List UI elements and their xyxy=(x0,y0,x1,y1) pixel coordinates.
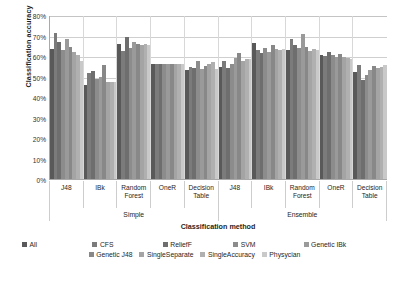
legend-label: SingleAccuracy xyxy=(208,251,255,258)
legend-swatch-icon xyxy=(92,242,97,247)
legend-label: SingleSeparate xyxy=(147,251,193,258)
y-tick-label: 0% xyxy=(18,177,46,184)
x-axis-super-category-labels: SimpleEnsemble xyxy=(49,208,387,221)
x-axis-category-labels: J48IBkRandom ForestOneRDecision TableJ48… xyxy=(49,181,387,208)
y-tick-label: 20% xyxy=(18,136,46,143)
legend-item[interactable]: All xyxy=(22,241,92,248)
y-tick-label: 80% xyxy=(18,13,46,20)
x-group-label: Simple xyxy=(49,208,218,221)
bar-group xyxy=(219,16,253,179)
bar-group xyxy=(84,16,118,179)
y-tick-label: 50% xyxy=(18,74,46,81)
bar-group xyxy=(50,16,84,179)
legend-item[interactable]: Genetic IBk xyxy=(304,241,374,248)
legend-label: Genetic J48 xyxy=(96,251,132,258)
x-tick-label: J48 xyxy=(218,181,252,208)
legend-swatch-icon xyxy=(304,242,309,247)
y-tick-label: 60% xyxy=(18,54,46,61)
bar-group xyxy=(117,16,151,179)
bar-group xyxy=(353,16,387,179)
legend-swatch-icon xyxy=(89,252,94,257)
x-tick-label: Random Forest xyxy=(116,181,150,208)
legend-item[interactable]: CFS xyxy=(92,241,162,248)
bar-chart: Classification accuracy 80%70%60%50%40%3… xyxy=(0,0,394,283)
x-tick-label: J48 xyxy=(49,181,83,208)
legend-swatch-icon xyxy=(163,242,168,247)
legend-label: CFS xyxy=(100,241,114,248)
legend-swatch-icon xyxy=(139,252,144,257)
x-group-label: Ensemble xyxy=(218,208,388,221)
legend-swatch-icon xyxy=(200,252,205,257)
legend-item[interactable]: SingleAccuracy xyxy=(200,251,254,258)
y-tick-label: 10% xyxy=(18,156,46,163)
x-tick-label: IBk xyxy=(251,181,285,208)
legend-item[interactable]: Physycian xyxy=(262,251,300,258)
bar xyxy=(383,65,387,179)
bar-group xyxy=(320,16,354,179)
legend-item[interactable]: Genetic J48 xyxy=(89,251,133,258)
bar-group xyxy=(252,16,286,179)
bar-group xyxy=(185,16,219,179)
bar-group xyxy=(286,16,320,179)
legend-label: Genetic IBk xyxy=(311,241,346,248)
legend-swatch-icon xyxy=(262,252,267,257)
legend-label: All xyxy=(29,241,37,248)
legend-row-2: Genetic J48SingleSeparateSingleAccuracyP… xyxy=(22,249,374,258)
y-tick-label: 70% xyxy=(18,33,46,40)
legend: AllCFSReliefFSVMGenetic IBk Genetic J48S… xyxy=(22,240,374,259)
legend-label: Physycian xyxy=(269,251,300,258)
bar-groups xyxy=(50,16,387,179)
legend-row-1: AllCFSReliefFSVMGenetic IBk xyxy=(22,240,374,249)
x-axis-title: Classification method xyxy=(49,222,387,231)
x-tick-label: Decision Table xyxy=(184,181,218,208)
legend-label: SVM xyxy=(241,241,256,248)
x-tick-label: OneR xyxy=(150,181,184,208)
legend-label: ReliefF xyxy=(170,241,192,248)
y-tick-label: 30% xyxy=(18,115,46,122)
y-tick-label: 40% xyxy=(18,95,46,102)
bar-group xyxy=(151,16,185,179)
legend-item[interactable]: SVM xyxy=(233,241,303,248)
x-tick-label: Decision Table xyxy=(352,181,387,208)
y-axis-tick-labels: 80%70%60%50%40%30%20%10%0% xyxy=(18,16,46,180)
legend-swatch-icon xyxy=(233,242,238,247)
legend-swatch-icon xyxy=(22,242,27,247)
plot-area xyxy=(49,16,387,180)
x-tick-label: IBk xyxy=(83,181,117,208)
legend-item[interactable]: ReliefF xyxy=(163,241,233,248)
x-tick-label: Random Forest xyxy=(285,181,319,208)
x-tick-label: OneR xyxy=(319,181,353,208)
legend-item[interactable]: SingleSeparate xyxy=(139,251,193,258)
